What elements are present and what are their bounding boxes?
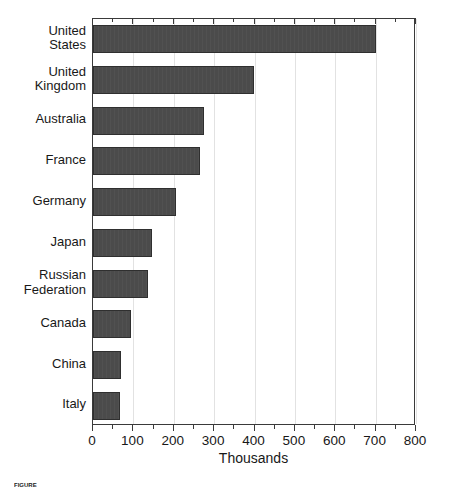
- bar-row: [93, 385, 416, 426]
- category-label: UnitedStates: [0, 18, 86, 59]
- bar-row: [93, 60, 416, 101]
- top-axis-minor-tick: [274, 18, 275, 22]
- bar[interactable]: [93, 270, 148, 298]
- axis-tick-label: 400: [242, 433, 265, 448]
- x-axis-title: Thousands: [92, 450, 415, 466]
- category-label: Japan: [0, 222, 86, 263]
- top-axis-minor-tick: [193, 18, 194, 22]
- axis-tick-label: 300: [202, 433, 225, 448]
- axis-tick-label: 500: [283, 433, 306, 448]
- gridline: [416, 19, 417, 424]
- plot-area: [92, 18, 415, 425]
- figure-container: UnitedStatesUnitedKingdomAustraliaFrance…: [0, 0, 450, 490]
- axis-tick-label: 200: [161, 433, 184, 448]
- bar[interactable]: [93, 392, 120, 420]
- top-axis-tick: [254, 18, 255, 24]
- top-axis-tick: [294, 18, 295, 24]
- axis-tick-label: 0: [88, 433, 96, 448]
- axis-minor-tick: [233, 425, 234, 429]
- axis-minor-tick: [193, 425, 194, 429]
- axis-minor-tick: [354, 425, 355, 429]
- bar[interactable]: [93, 310, 131, 338]
- axis-minor-tick: [274, 425, 275, 429]
- top-axis-ticks: [92, 18, 415, 26]
- category-label: Australia: [0, 99, 86, 140]
- axis-tick: [92, 425, 93, 431]
- category-label: France: [0, 140, 86, 181]
- bar[interactable]: [93, 107, 204, 135]
- axis-minor-tick: [314, 425, 315, 429]
- top-axis-minor-tick: [314, 18, 315, 22]
- category-label: Italy: [0, 384, 86, 425]
- bar-row: [93, 182, 416, 223]
- category-label: RussianFederation: [0, 262, 86, 303]
- axis-tick: [213, 425, 214, 431]
- axis-tick-label: 600: [323, 433, 346, 448]
- bar[interactable]: [93, 229, 152, 257]
- bar-row: [93, 345, 416, 386]
- bar[interactable]: [93, 147, 200, 175]
- axis-tick: [375, 425, 376, 431]
- category-label: Germany: [0, 181, 86, 222]
- top-axis-minor-tick: [233, 18, 234, 22]
- axis-tick: [173, 425, 174, 431]
- bar[interactable]: [93, 66, 254, 94]
- bar-row: [93, 141, 416, 182]
- category-axis-labels: UnitedStatesUnitedKingdomAustraliaFrance…: [0, 18, 86, 425]
- bar-row: [93, 304, 416, 345]
- axis-tick: [415, 425, 416, 431]
- top-axis-tick: [132, 18, 133, 24]
- axis-tick-label: 100: [121, 433, 144, 448]
- top-axis-minor-tick: [153, 18, 154, 22]
- bar[interactable]: [93, 25, 376, 53]
- bar-row: [93, 223, 416, 264]
- top-axis-tick: [213, 18, 214, 24]
- axis-tick: [254, 425, 255, 431]
- top-axis-minor-tick: [112, 18, 113, 22]
- category-label: Canada: [0, 303, 86, 344]
- bar[interactable]: [93, 351, 121, 379]
- axis-tick-label: 800: [404, 433, 427, 448]
- top-axis-tick: [375, 18, 376, 24]
- category-label: China: [0, 344, 86, 385]
- figure-caption-label: FIGURE: [14, 482, 37, 488]
- axis-minor-tick: [153, 425, 154, 429]
- top-axis-minor-tick: [395, 18, 396, 22]
- category-label: UnitedKingdom: [0, 59, 86, 100]
- bar-row: [93, 263, 416, 304]
- top-axis-tick: [415, 18, 416, 24]
- figure-caption: FIGURE: [14, 481, 444, 489]
- top-axis-minor-tick: [354, 18, 355, 22]
- axis-tick: [294, 425, 295, 431]
- top-axis-tick: [173, 18, 174, 24]
- axis-tick-label: 700: [363, 433, 386, 448]
- bar-series: [93, 19, 414, 424]
- axis-tick: [132, 425, 133, 431]
- axis-minor-tick: [112, 425, 113, 429]
- top-axis-tick: [334, 18, 335, 24]
- bar-row: [93, 100, 416, 141]
- axis-tick: [334, 425, 335, 431]
- bar[interactable]: [93, 188, 176, 216]
- axis-minor-tick: [395, 425, 396, 429]
